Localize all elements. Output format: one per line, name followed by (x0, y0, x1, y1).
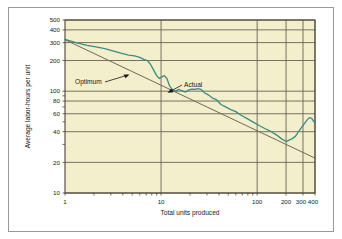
ytick-label-500: 500 (50, 16, 61, 23)
xtick-label-300-400: 300 400 (296, 198, 319, 205)
xtick-label-100: 100 (252, 198, 263, 205)
ytick-label-40: 40 (53, 128, 60, 135)
ytick-label-10: 10 (53, 189, 60, 196)
xtick-label-10: 10 (158, 198, 165, 205)
xtick-label-200: 200 (281, 198, 292, 205)
ytick-label-100: 100 (50, 87, 61, 94)
ytick-label-200: 200 (50, 57, 61, 64)
x-axis-title: Total units produced (160, 209, 219, 217)
learning-curve-chart: 1020406080100200300400500110100200300 40… (9, 8, 333, 231)
annotation-label-actual: Actual (184, 81, 203, 88)
ytick-label-60: 60 (53, 110, 60, 117)
ytick-label-20: 20 (53, 159, 60, 166)
ytick-label-400: 400 (50, 26, 61, 33)
plot-background (65, 20, 315, 193)
y-axis-title: Average labor-hours per unit (24, 65, 32, 149)
ytick-label-300: 300 (50, 39, 61, 46)
chart-figure: 1020406080100200300400500110100200300 40… (8, 7, 334, 232)
annotation-label-optimum: Optimum (75, 78, 102, 86)
ytick-label-80: 80 (53, 97, 60, 104)
xtick-label-1: 1 (63, 198, 67, 205)
